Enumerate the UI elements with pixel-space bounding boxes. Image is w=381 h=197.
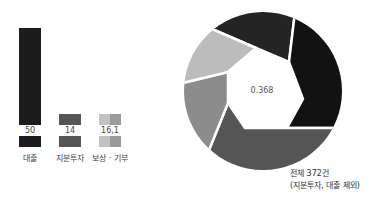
annotation-line-1: 전체 372건	[290, 168, 360, 180]
donut-center-value: 0.368	[232, 86, 292, 95]
annotation-line-2: (지분투자, 대출 제외)	[290, 180, 360, 192]
donut-annotation: 전체 372건 (지분투자, 대출 제외)	[290, 168, 360, 192]
donut-segment-right	[287, 12, 360, 128]
